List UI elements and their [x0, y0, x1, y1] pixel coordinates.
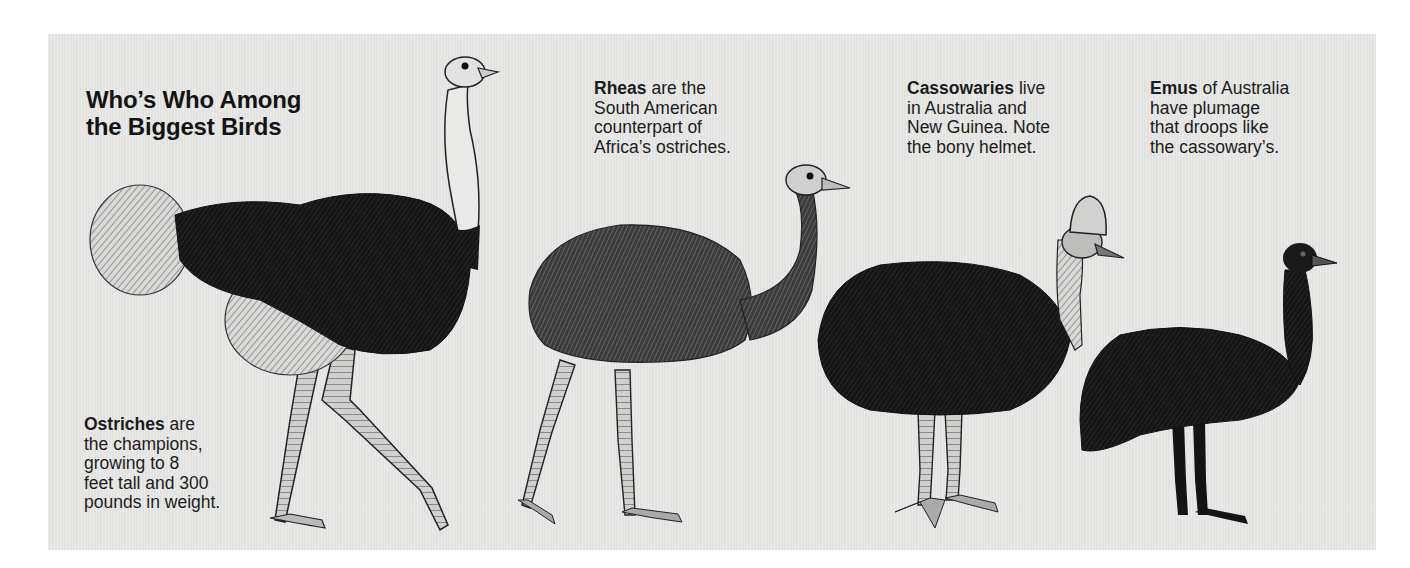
- cassowary-caption: Cassowaries live in Australia and New Gu…: [907, 79, 1050, 157]
- bird-name: Emus: [1150, 78, 1198, 98]
- rhea-caption: Rheas are the South American counterpart…: [594, 79, 731, 157]
- bird-name: Cassowaries: [907, 78, 1014, 98]
- bird-name: Ostriches: [84, 414, 165, 434]
- cassowary-illustration: [818, 196, 1124, 528]
- ostrich-caption: Ostriches are the champions, growing to …: [84, 415, 220, 513]
- emu-caption: Emus of Australia have plumage that droo…: [1150, 79, 1289, 157]
- emu-illustration: [1080, 243, 1337, 524]
- rhea-illustration: [518, 165, 850, 524]
- bird-name: Rheas: [594, 78, 647, 98]
